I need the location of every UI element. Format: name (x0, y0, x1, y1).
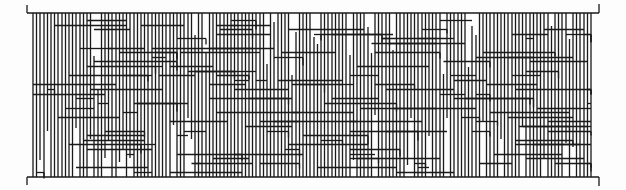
frame-bars (27, 4, 599, 186)
vertical-strands (33, 13, 591, 177)
horizontal-rungs (33, 21, 591, 179)
diagram-canvas: Dense line diagram of vertical strands b… (0, 0, 626, 190)
ladder-network-diagram (0, 0, 626, 190)
